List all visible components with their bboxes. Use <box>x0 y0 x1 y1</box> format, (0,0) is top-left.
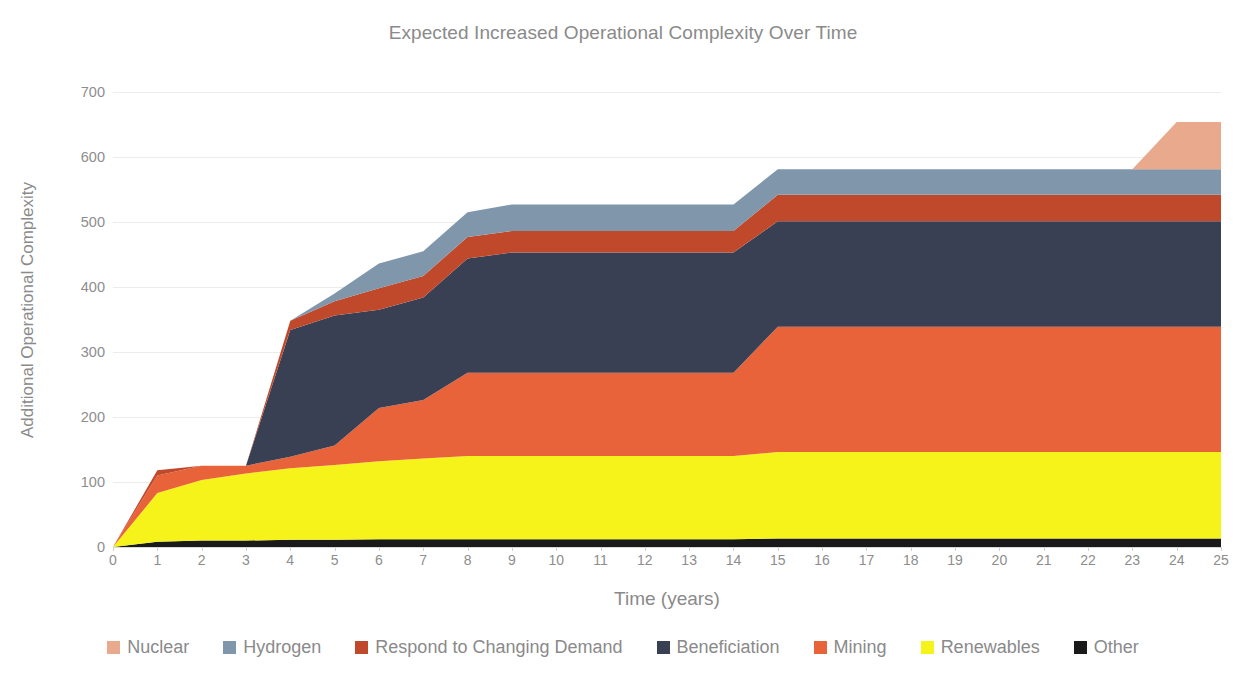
x-axis-tick-label: 23 <box>1112 552 1152 568</box>
x-axis-tickmark <box>1221 547 1222 551</box>
x-axis-tick-label: 10 <box>536 552 576 568</box>
x-axis-tick-label: 20 <box>979 552 1019 568</box>
chart-container: Expected Increased Operational Complexit… <box>0 0 1246 686</box>
x-axis-tick-label: 18 <box>891 552 931 568</box>
x-axis-tick-label: 3 <box>226 552 266 568</box>
legend-item-label: Nuclear <box>127 637 189 658</box>
legend-item-label: Other <box>1094 637 1139 658</box>
legend-item[interactable]: Hydrogen <box>223 637 321 658</box>
legend-item-label: Hydrogen <box>243 637 321 658</box>
x-axis-tick-label: 13 <box>669 552 709 568</box>
x-axis-tick-label: 15 <box>758 552 798 568</box>
x-axis-tick-label: 16 <box>802 552 842 568</box>
y-axis-tick-label: 100 <box>45 474 105 490</box>
x-axis-tick-label: 8 <box>448 552 488 568</box>
y-axis-tick-label: 300 <box>45 344 105 360</box>
legend-swatch-icon <box>355 641 368 654</box>
x-axis-title: Time (years) <box>113 588 1221 610</box>
y-axis-tick-label: 600 <box>45 149 105 165</box>
legend-swatch-icon <box>107 641 120 654</box>
legend-swatch-icon <box>657 641 670 654</box>
x-axis-tick-label: 12 <box>625 552 665 568</box>
x-axis-tick-label: 4 <box>270 552 310 568</box>
legend-item-label: Renewables <box>941 637 1040 658</box>
legend-item[interactable]: Beneficiation <box>657 637 780 658</box>
legend-item[interactable]: Renewables <box>921 637 1040 658</box>
x-axis-tick-label: 25 <box>1201 552 1241 568</box>
legend-swatch-icon <box>1074 641 1087 654</box>
x-axis-tick-label: 11 <box>581 552 621 568</box>
chart-legend: NuclearHydrogenRespond to Changing Deman… <box>0 637 1246 658</box>
legend-item[interactable]: Other <box>1074 637 1139 658</box>
x-axis-line <box>113 547 1221 548</box>
stacked-area-series <box>113 92 1221 547</box>
legend-swatch-icon <box>921 641 934 654</box>
legend-item[interactable]: Respond to Changing Demand <box>355 637 622 658</box>
x-axis-tick-label: 17 <box>846 552 886 568</box>
legend-item-label: Beneficiation <box>677 637 780 658</box>
x-axis-tick-label: 6 <box>359 552 399 568</box>
legend-swatch-icon <box>223 641 236 654</box>
x-axis-tick-label: 19 <box>935 552 975 568</box>
y-axis-title: Additional Operational Complexity <box>18 100 38 520</box>
x-axis-tick-label: 2 <box>182 552 222 568</box>
x-axis-tick-label: 1 <box>137 552 177 568</box>
legend-item[interactable]: Nuclear <box>107 637 189 658</box>
legend-item-label: Respond to Changing Demand <box>375 637 622 658</box>
plot-area <box>113 92 1221 547</box>
x-axis-tick-label: 5 <box>315 552 355 568</box>
chart-title: Expected Increased Operational Complexit… <box>0 22 1246 44</box>
legend-swatch-icon <box>814 641 827 654</box>
x-axis-tick-label: 21 <box>1024 552 1064 568</box>
y-axis-tick-label: 200 <box>45 409 105 425</box>
y-axis-tick-label: 500 <box>45 214 105 230</box>
x-axis-tick-label: 22 <box>1068 552 1108 568</box>
x-axis-tick-label: 0 <box>93 552 133 568</box>
legend-item-label: Mining <box>834 637 887 658</box>
y-axis-tick-label: 400 <box>45 279 105 295</box>
x-axis-tick-label: 24 <box>1157 552 1197 568</box>
x-axis-tick-label: 9 <box>492 552 532 568</box>
x-axis-tick-label: 7 <box>403 552 443 568</box>
x-axis-tick-label: 14 <box>713 552 753 568</box>
y-axis-tick-label: 700 <box>45 84 105 100</box>
legend-item[interactable]: Mining <box>814 637 887 658</box>
